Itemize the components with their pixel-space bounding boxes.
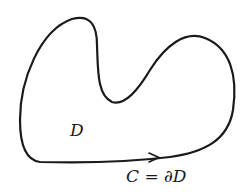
region-label: D [70,120,84,140]
boundary-label: C = ∂D [126,166,186,186]
closed-curve-c [20,18,234,163]
direction-arrow-icon [149,153,159,162]
